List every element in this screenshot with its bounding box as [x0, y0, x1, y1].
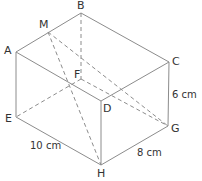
- vertex-label-G: G: [171, 123, 180, 134]
- edge-AB: [16, 13, 81, 52]
- edge-FE: [16, 79, 81, 117]
- vertex-label-M: M: [39, 19, 49, 30]
- vertex-label-A: A: [4, 45, 12, 56]
- dimension-label-EH: 10 cm: [30, 141, 61, 151]
- vertex-label-H: H: [97, 168, 105, 179]
- vertex-label-C: C: [172, 56, 180, 67]
- edge-BC: [81, 13, 169, 62]
- vertex-label-B: B: [77, 0, 85, 11]
- prism-diagram: B M A C F D E G H 6 cm 10 cm 8 cm: [0, 0, 202, 181]
- vertex-label-E: E: [5, 113, 12, 124]
- edge-HG: [101, 126, 168, 165]
- edge-FG: [81, 79, 168, 126]
- dimension-label-CG: 6 cm: [172, 90, 197, 100]
- vertex-label-D: D: [103, 103, 111, 114]
- dimension-label-HG: 8 cm: [137, 148, 162, 158]
- vertex-label-F: F: [74, 69, 80, 80]
- edge-GC: [168, 62, 169, 126]
